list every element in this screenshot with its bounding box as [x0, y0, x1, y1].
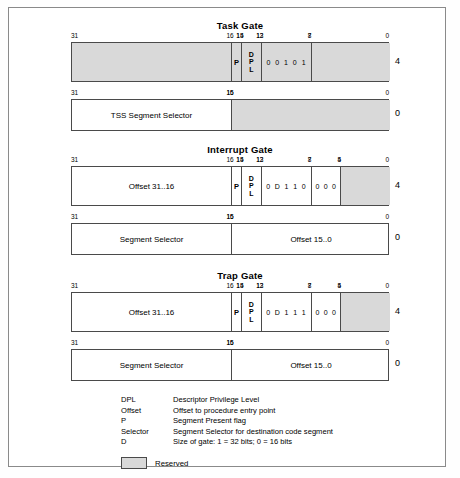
bit-value: 0	[275, 59, 279, 66]
byte-offset-interrupt-gate-dword1: 4	[395, 180, 400, 190]
bit-number: 15	[226, 89, 233, 96]
bit-value: 1	[293, 309, 297, 316]
field-dpl: DPL	[241, 43, 261, 81]
bit-number: 31	[71, 32, 78, 39]
diagram-frame: Task Gate 311615141312870 PDPL00101 4 31…	[8, 7, 446, 467]
legend-row: OffsetOffset to procedure entry point	[121, 406, 333, 417]
bit-value: 0	[316, 183, 320, 190]
bit-number: 16	[226, 282, 233, 289]
byte-offset-task-gate-dword0: 0	[395, 108, 400, 118]
legend-key: Selector	[121, 427, 173, 438]
bit-pattern: 000	[312, 293, 341, 331]
bit-number: 12	[256, 282, 263, 289]
diagram-page: Task Gate 311615141312870 PDPL00101 4 31…	[0, 0, 460, 478]
p-label: P	[234, 308, 239, 317]
legend-row: DSize of gate: 1 = 32 bits; 0 = 16 bits	[121, 437, 333, 448]
reserved-label: Reserved	[155, 459, 188, 468]
bit-number: 7	[308, 156, 312, 163]
bit-number: 31	[71, 156, 78, 163]
bit-value: 0	[266, 309, 270, 316]
bit-number: 16	[226, 156, 233, 163]
field-type-bits: 0D110	[261, 167, 311, 205]
field-tss-segment-selector: TSS Segment Selector	[72, 100, 231, 130]
field-dpl: DPL	[241, 167, 261, 205]
legend-key: DPL	[121, 395, 173, 406]
field-zero-bits: 000	[311, 167, 341, 205]
byte-offset-trap-gate-dword0: 0	[395, 358, 400, 368]
field-label: Segment Selector	[120, 235, 184, 244]
bit-number: 0	[385, 339, 389, 346]
field-segment-selector: Segment Selector	[72, 224, 231, 254]
legend-description: Segment Present flag	[173, 416, 246, 427]
field-reserved-low	[231, 100, 390, 130]
legend-description: Segment Selector for destination code se…	[173, 427, 333, 438]
dpl-label: DPL	[249, 51, 254, 72]
bit-value: 0	[293, 59, 297, 66]
bit-number: 12	[256, 32, 263, 39]
bit-value: 0	[324, 183, 328, 190]
bit-number: 14	[236, 282, 243, 289]
field-present-flag: P	[231, 43, 241, 81]
legend-row: DPLDescriptor Privilege Level	[121, 395, 333, 406]
field-label: Offset 15..0	[290, 361, 331, 370]
bit-value: D	[275, 309, 280, 316]
register-row-interrupt-gate-dword0: Segment SelectorOffset 15..0	[71, 223, 389, 255]
bit-value: 0	[302, 183, 306, 190]
dpl-label: DPL	[249, 175, 254, 196]
bit-number: 31	[71, 282, 78, 289]
bit-number: 4	[338, 282, 342, 289]
register-row-trap-gate-dword0: Segment SelectorOffset 15..0	[71, 349, 389, 381]
field-present-flag: P	[231, 293, 241, 331]
field-reserved-low	[340, 293, 390, 331]
legend: DPLDescriptor Privilege LevelOffsetOffse…	[121, 395, 333, 448]
field-segment-selector: Segment Selector	[72, 350, 231, 380]
bit-pattern: 0D110	[262, 167, 311, 205]
register-row-task-gate-dword1: PDPL00101	[71, 42, 389, 82]
p-label: P	[234, 182, 239, 191]
bit-number: 12	[256, 156, 263, 163]
legend-reserved-key: Reserved	[121, 457, 188, 469]
bit-number: 0	[385, 213, 389, 220]
dpl-label: DPL	[249, 301, 254, 322]
bit-value: D	[275, 183, 280, 190]
bit-number: 0	[385, 32, 389, 39]
register-row-trap-gate-dword1: Offset 31..16PDPL0D111000	[71, 292, 389, 332]
field-reserved-low	[340, 167, 390, 205]
bit-pattern: 0D111	[262, 293, 311, 331]
bit-number: 15	[226, 339, 233, 346]
bit-value: 0	[266, 183, 270, 190]
field-type-bits: 0D111	[261, 293, 311, 331]
field-reserved-low	[311, 43, 391, 81]
field-present-flag: P	[231, 167, 241, 205]
field-offset-high: Offset 31..16	[72, 167, 231, 205]
bit-number: 7	[308, 32, 312, 39]
bit-value: 1	[302, 309, 306, 316]
bit-number: 31	[71, 89, 78, 96]
field-dpl: DPL	[241, 293, 261, 331]
bit-value: 0	[324, 309, 328, 316]
bit-number: 14	[236, 32, 243, 39]
bit-value: 1	[293, 183, 297, 190]
field-offset-low: Offset 15..0	[231, 224, 390, 254]
bit-value: 1	[285, 183, 289, 190]
section-title-interrupt-gate: Interrupt Gate	[71, 144, 409, 155]
bit-pattern: 000	[312, 167, 341, 205]
bit-value: 0	[316, 309, 320, 316]
field-label: Offset 31..16	[129, 182, 175, 191]
section-title-task-gate: Task Gate	[71, 20, 409, 31]
bit-number: 16	[226, 32, 233, 39]
field-reserved-high	[72, 43, 231, 81]
legend-key: P	[121, 416, 173, 427]
bit-value: 1	[302, 59, 306, 66]
bit-number: 14	[236, 156, 243, 163]
bit-value: 0	[332, 183, 336, 190]
legend-row: SelectorSegment Selector for destination…	[121, 427, 333, 438]
legend-key: D	[121, 437, 173, 448]
field-zero-bits: 000	[311, 293, 341, 331]
bit-number: 0	[385, 89, 389, 96]
field-label: Segment Selector	[120, 361, 184, 370]
bit-value: 0	[266, 59, 270, 66]
bit-number: 0	[385, 156, 389, 163]
bit-value: 1	[285, 309, 289, 316]
bit-number: 0	[385, 282, 389, 289]
